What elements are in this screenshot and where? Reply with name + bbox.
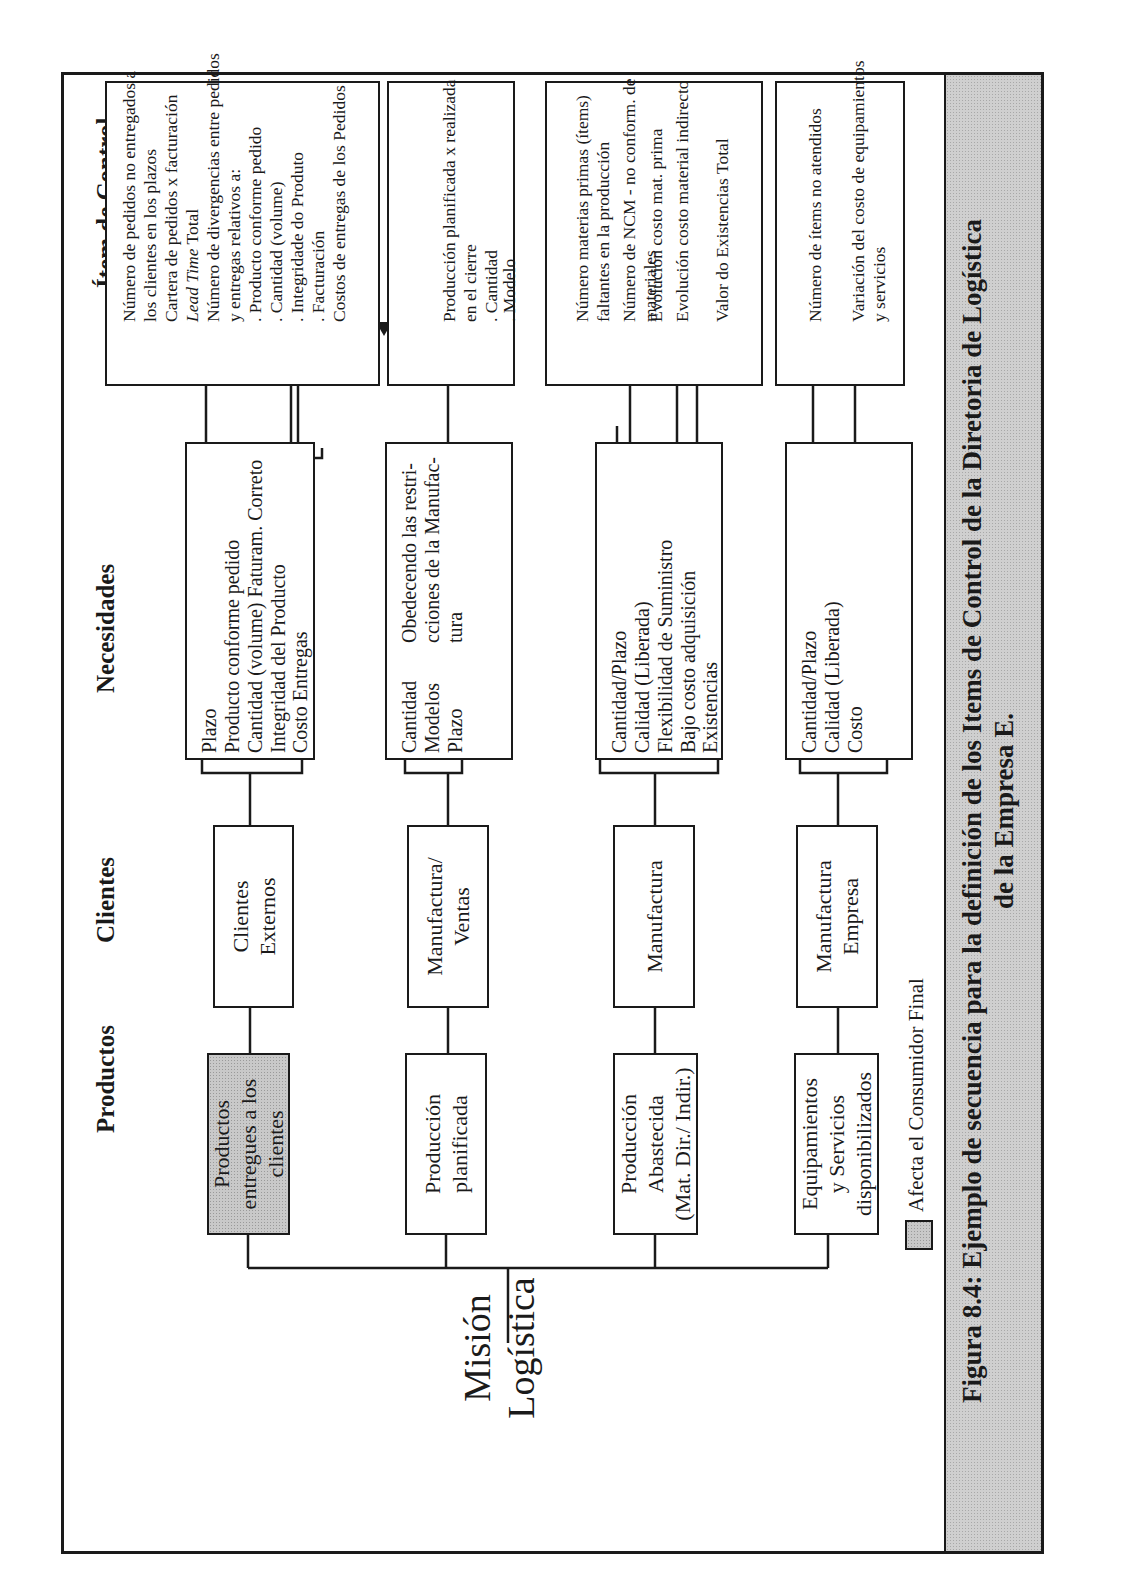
client-1-line-2: Externos: [254, 877, 281, 955]
item-1-7: . Producto conforme pedido: [245, 127, 266, 322]
needs-box-1: Plazo Producto conforme pedido Cantidad …: [185, 442, 315, 760]
need-3-3: Flexibilidad de Suministro: [653, 540, 677, 753]
client-4-line-2: Empresa: [837, 860, 864, 972]
need-3-5: Existencias: [698, 662, 722, 753]
caption-line-2: de la Empresa E.: [988, 121, 1020, 1501]
item-3-3: Número de NCM - no conform. de: [619, 79, 640, 323]
product-box-planificada: Producción planificada: [405, 1053, 487, 1235]
item-1-4: Lead Time Total: [182, 209, 203, 322]
client-box-manufactura: Manufactura: [613, 825, 695, 1008]
client-2-line-1: Manufactura/: [421, 857, 448, 976]
need-4-1: Cantidad/Plazo: [797, 631, 821, 753]
need-3-2: Calidad (Liberada): [630, 601, 654, 753]
need-1-2: Producto conforme pedido: [220, 540, 244, 753]
client-1-line-1: Clientes: [227, 877, 254, 955]
items-box-3: Número materias primas (ítems) faltantes…: [545, 81, 763, 386]
item-2-1: Producción planificada x realizada: [439, 80, 460, 322]
item-2-4: . Modelo: [499, 259, 520, 322]
item-1-6: y entregas relativos a:: [224, 169, 245, 322]
item-1-3: Cartera de pedidos x facturación: [161, 95, 182, 322]
need-2-note-2: cciones de la Manufac-: [420, 457, 444, 643]
need-4-3: Costo: [843, 706, 867, 753]
client-2-line-2: Ventas: [448, 857, 475, 976]
item-3-1: Número materias primas (ítems): [572, 95, 593, 322]
need-2-note-1: Obedecendo las restri-: [397, 463, 421, 643]
item-1-1: Número de pedidos no entregados a: [119, 71, 140, 322]
product-box-abastecida: Producción Abastecida (Mat. Dir./ Indir.…: [613, 1053, 698, 1235]
client-3-line-1: Manufactura: [641, 860, 668, 972]
items-box-1: Número de pedidos no entregados a los cl…: [105, 81, 380, 386]
needs-box-3: Cantidad/Plazo Calidad (Liberada) Flexib…: [595, 442, 723, 760]
need-1-5: Costo Entregas: [288, 631, 312, 753]
item-1-10: . Facturación: [308, 231, 329, 322]
items-box-4: Número de ítems no atendidos Variación d…: [775, 81, 905, 386]
product-4-line-3: disponibilizados: [850, 1072, 877, 1216]
product-2-line-2: planificada: [446, 1094, 473, 1194]
item-3-6: Evolución costo material indirecto: [672, 80, 693, 322]
item-2-2: en el cierre: [460, 244, 481, 322]
product-4-line-2: y Servicios: [823, 1072, 850, 1216]
product-1-line-1: Productos: [208, 1079, 235, 1210]
legend-label: Afecta el Consumidor Final: [904, 978, 929, 1212]
need-3-1: Cantidad/Plazo: [607, 631, 631, 753]
needs-box-2: Cantidad Modelos Plazo Obedecendo las re…: [385, 442, 513, 760]
item-4-3: y servicios: [869, 247, 890, 322]
caption-bar: Figura 8.4: Ejemplo de secuencia para la…: [944, 75, 1041, 1551]
item-1-5: Número de divergencias entre pedidos: [203, 53, 224, 322]
need-3-4: Bajo costo adquisición: [676, 571, 700, 753]
need-2-3: Plazo: [443, 709, 467, 753]
product-box-equipamientos: Equipamientos y Servicios disponibilizad…: [794, 1053, 879, 1235]
item-1-11: Costos de entregas de los Pedidos: [329, 85, 350, 322]
item-3-5: Evolución costo mat. prima: [646, 129, 667, 322]
needs-box-4: Cantidad/Plazo Calidad (Liberada) Costo: [785, 442, 913, 760]
product-3-line-3: (Mat. Dir./ Indir.): [669, 1067, 696, 1220]
item-1-4-rest: Total: [182, 209, 202, 249]
item-3-2: faltantes en la producción: [593, 142, 614, 322]
item-4-2: Variación del costo de equipamientos: [848, 61, 869, 322]
need-4-2: Calidad (Liberada): [820, 601, 844, 753]
need-1-4: Integridad del Producto: [266, 564, 290, 753]
figure-caption: Figura 8.4: Ejemplo de secuencia para la…: [956, 121, 1020, 1501]
figure-canvas: Productos Clientes Necesidades Ítem de C…: [0, 0, 1133, 1588]
item-1-2: los clientes en los plazos: [140, 149, 161, 322]
product-1-line-2: entregues a los: [235, 1079, 262, 1210]
client-box-manufactura-ventas: Manufactura/ Ventas: [407, 825, 489, 1008]
product-box-entregues: Productos entregues a los clientes: [207, 1053, 290, 1235]
product-1-line-3: clientes: [262, 1079, 289, 1210]
client-4-line-1: Manufactura: [810, 860, 837, 972]
item-1-8: . Cantidad (volume): [266, 182, 287, 322]
client-box-manufactura-empresa: Manufactura Empresa: [796, 825, 878, 1008]
product-3-line-1: Producción: [615, 1067, 642, 1220]
client-box-externos: Clientes Externos: [213, 825, 294, 1008]
need-1-3: Cantidad (volume) Faturam. Correto: [243, 460, 267, 753]
item-3-7: Valor do Existencias Total: [712, 138, 733, 322]
item-4-1: Número de ítems no atendidos: [805, 108, 826, 322]
need-2-1: Cantidad: [397, 681, 421, 753]
need-2-note-3: tura: [443, 612, 467, 643]
legend-swatch: [905, 1220, 933, 1250]
need-1-1: Plazo: [197, 709, 221, 753]
item-1-9: . Integridade do Produto: [287, 152, 308, 322]
item-1-4-italic: Lead Time: [182, 249, 202, 322]
product-4-line-1: Equipamientos: [796, 1072, 823, 1216]
product-2-line-1: Producción: [419, 1094, 446, 1194]
need-2-2: Modelos: [420, 683, 444, 753]
caption-line-1: Figura 8.4: Ejemplo de secuencia para la…: [956, 121, 988, 1501]
product-3-line-2: Abastecida: [642, 1067, 669, 1220]
items-box-2: Producción planificada x realizada en el…: [387, 81, 515, 386]
